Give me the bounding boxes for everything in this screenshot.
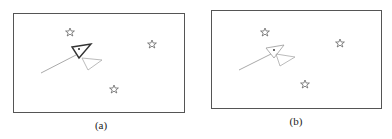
star-icon (66, 28, 75, 36)
panel-a: (a) (0, 0, 196, 139)
triangle-light (82, 58, 102, 70)
trajectory-line (239, 54, 271, 70)
point-marker (78, 48, 80, 50)
frame-b (212, 11, 382, 109)
star-icon (148, 40, 157, 48)
triangle-light (266, 45, 284, 58)
triangle-light (276, 54, 295, 66)
frame-a (14, 14, 185, 113)
caption-a: (a) (81, 119, 121, 131)
trajectory-line (41, 55, 76, 73)
star-icon (110, 85, 119, 93)
caption-b: (b) (276, 115, 316, 127)
star-icon (261, 28, 270, 36)
star-icon (336, 39, 345, 47)
star-icon (301, 80, 310, 88)
point-marker (273, 49, 275, 51)
panel-b: (b) (196, 0, 392, 139)
